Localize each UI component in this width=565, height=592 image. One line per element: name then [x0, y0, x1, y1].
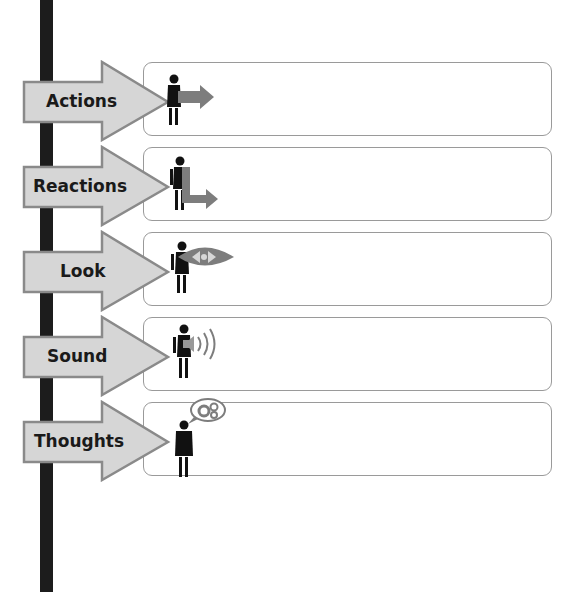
- person-with-return-arrow-icon: [168, 155, 228, 219]
- row-sound: Sound: [0, 313, 565, 403]
- row-reactions: Reactions: [0, 143, 565, 233]
- person-with-speaker-icon: [172, 323, 242, 387]
- row-label: Reactions: [33, 176, 127, 196]
- person-with-arrow-icon: [162, 73, 222, 133]
- row-label: Actions: [46, 91, 117, 111]
- row-label: Sound: [47, 346, 107, 366]
- row-look: Look: [0, 228, 565, 318]
- row-thoughts: Thoughts: [0, 398, 565, 488]
- person-with-thought-gears-icon: [170, 398, 240, 478]
- row-label: Thoughts: [34, 431, 124, 451]
- row-actions: Actions: [0, 58, 565, 148]
- person-with-eye-icon: [170, 240, 250, 302]
- row-label: Look: [60, 261, 106, 281]
